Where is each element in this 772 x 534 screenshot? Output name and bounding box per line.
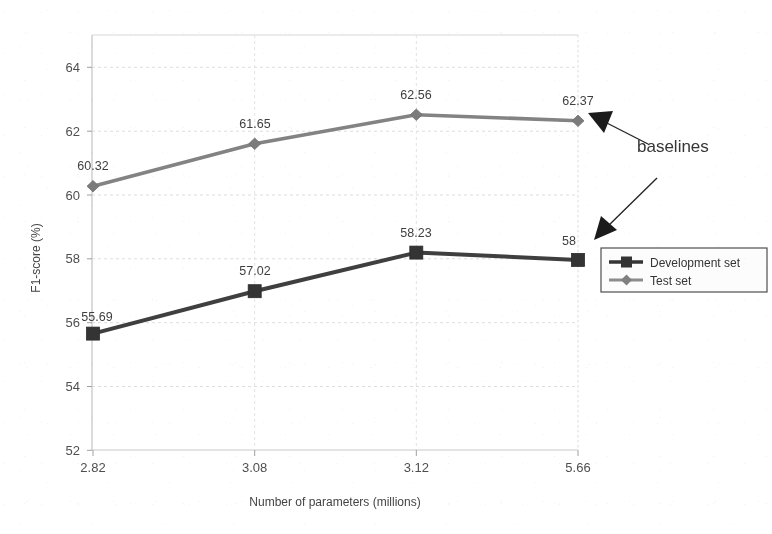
data-label: 55.69 bbox=[81, 310, 112, 324]
line-chart-svg: 64 62 60 58 56 54 52 2.82 3.08 3.12 5.66… bbox=[0, 0, 772, 534]
data-label: 61.65 bbox=[239, 117, 270, 131]
y-tick-label: 58 bbox=[66, 251, 80, 266]
x-tick-label: 3.08 bbox=[242, 460, 267, 475]
data-label: 62.56 bbox=[400, 88, 431, 102]
x-gridlines bbox=[255, 35, 417, 450]
y-tick-label: 56 bbox=[66, 315, 80, 330]
x-tick-label: 3.12 bbox=[404, 460, 429, 475]
y-gridlines bbox=[92, 67, 578, 386]
x-axis-title: Number of parameters (millions) bbox=[249, 495, 420, 509]
plot-frame bbox=[92, 35, 578, 450]
y-tick-label: 54 bbox=[66, 379, 80, 394]
y-tick-label: 60 bbox=[66, 188, 80, 203]
x-tick-marks bbox=[93, 450, 578, 456]
test-set-markers bbox=[87, 109, 584, 192]
data-label: 62.37 bbox=[562, 94, 593, 108]
chart-legend[interactable]: Development set Test set bbox=[601, 248, 767, 292]
legend-label: Test set bbox=[650, 274, 692, 288]
y-tick-label: 64 bbox=[66, 60, 80, 75]
y-tick-label: 62 bbox=[66, 124, 80, 139]
x-axis-tick-labels: 2.82 3.08 3.12 5.66 bbox=[80, 460, 590, 475]
y-axis-title: F1-score (%) bbox=[29, 223, 43, 292]
x-tick-label: 5.66 bbox=[565, 460, 590, 475]
series-test-set: 60.32 61.65 62.56 62.37 bbox=[77, 88, 593, 192]
legend-square-marker-icon bbox=[621, 257, 632, 268]
legend-label: Development set bbox=[650, 256, 741, 270]
y-tick-marks bbox=[87, 67, 92, 450]
data-label: 58 bbox=[562, 234, 576, 248]
data-label: 60.32 bbox=[77, 159, 108, 173]
data-label: 57.02 bbox=[239, 264, 270, 278]
baselines-annotation: baselines bbox=[588, 111, 709, 240]
data-label: 58.23 bbox=[400, 226, 431, 240]
development-set-markers bbox=[87, 246, 585, 340]
baselines-label: baselines bbox=[637, 137, 709, 156]
y-axis-tick-labels: 64 62 60 58 56 54 52 bbox=[66, 60, 80, 458]
y-tick-label: 52 bbox=[66, 443, 80, 458]
chart-figure: 64 62 60 58 56 54 52 2.82 3.08 3.12 5.66… bbox=[0, 0, 772, 534]
x-tick-label: 2.82 bbox=[80, 460, 105, 475]
